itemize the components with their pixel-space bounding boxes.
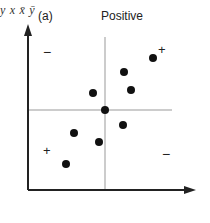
panel-label: (a) — [38, 9, 53, 23]
y-axis-arrow-icon — [24, 24, 32, 36]
chart-canvas — [0, 0, 210, 223]
sign-bottom-left: + — [43, 143, 51, 158]
sign-top-right: + — [158, 42, 166, 57]
chart-title: Positive — [101, 9, 143, 23]
scatter-chart: (a) Positive y x x̄ ȳ − + + − — [0, 0, 210, 223]
x-axis-arrow-icon — [184, 186, 196, 194]
data-points — [62, 54, 157, 168]
sign-top-left: − — [43, 44, 51, 60]
sign-bottom-right: − — [162, 146, 170, 162]
